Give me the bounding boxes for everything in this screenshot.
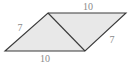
- side-label-upper-left: 7: [18, 23, 23, 33]
- geometry-figure: 10 7 10 7: [0, 0, 131, 66]
- side-label-lower-right: 7: [110, 35, 115, 45]
- side-label-top: 10: [83, 2, 93, 12]
- side-label-bottom: 10: [40, 54, 50, 64]
- parallelogram-shape: [5, 13, 126, 51]
- parallelogram-drawing: [0, 0, 131, 66]
